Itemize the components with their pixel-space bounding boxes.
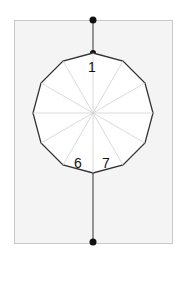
diagram-canvas: 1 6 7: [0, 0, 178, 287]
top-end-dot: [90, 17, 97, 24]
bottom-end-dot: [90, 239, 97, 246]
vertex-label-7: 7: [102, 156, 110, 170]
diagram-graphics: [0, 0, 178, 287]
vertex-label-1: 1: [88, 60, 96, 74]
vertex-label-6: 6: [74, 156, 82, 170]
